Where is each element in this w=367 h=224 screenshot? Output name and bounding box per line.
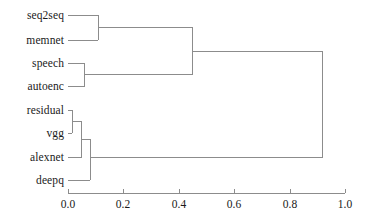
x-axis-tick-labels: 0.0 0.2 0.4 0.6 0.8 1.0	[0, 198, 367, 218]
dendrogram-links	[68, 15, 323, 180]
x-tick-label-1: 0.2	[116, 198, 130, 210]
x-tick-label-2: 0.4	[172, 198, 186, 210]
x-axis	[68, 189, 345, 193]
x-tick-label-0: 0.0	[61, 198, 75, 210]
dendrogram-figure: seq2seq memnet speech autoenc residual v…	[0, 0, 367, 224]
x-tick-label-5: 1.0	[338, 198, 352, 210]
dendrogram-plot	[0, 0, 367, 224]
x-tick-label-3: 0.6	[227, 198, 241, 210]
x-tick-label-4: 0.8	[283, 198, 297, 210]
